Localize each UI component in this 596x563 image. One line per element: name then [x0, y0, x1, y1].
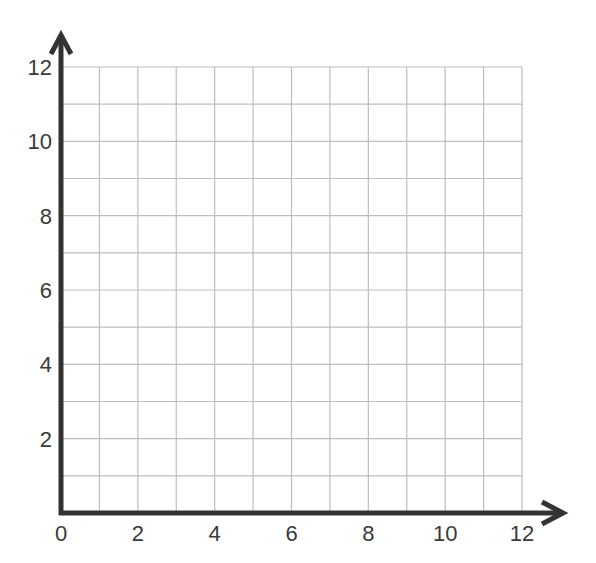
- y-tick-label: 4: [40, 352, 52, 377]
- x-tick-label: 12: [510, 521, 534, 546]
- x-tick-labels: 024681012: [55, 521, 534, 546]
- axes: [51, 35, 563, 524]
- x-tick-label: 6: [285, 521, 297, 546]
- y-tick-label: 12: [28, 55, 52, 80]
- grid-lines: [61, 67, 522, 513]
- y-tick-label: 10: [28, 129, 52, 154]
- x-tick-label: 2: [132, 521, 144, 546]
- x-tick-label: 10: [433, 521, 457, 546]
- y-tick-label: 2: [40, 427, 52, 452]
- y-tick-labels: 24681012: [28, 55, 52, 452]
- y-tick-label: 6: [40, 278, 52, 303]
- coordinate-grid-chart: 024681012 24681012: [0, 0, 596, 563]
- x-tick-label: 4: [209, 521, 221, 546]
- x-tick-label: 0: [55, 521, 67, 546]
- x-tick-label: 8: [362, 521, 374, 546]
- y-tick-label: 8: [40, 204, 52, 229]
